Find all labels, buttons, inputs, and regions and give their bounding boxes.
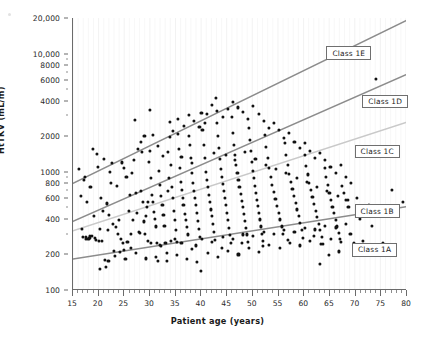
x-tick-label: 70 bbox=[350, 299, 360, 308]
x-minor-tick bbox=[262, 290, 263, 293]
x-minor-tick bbox=[236, 290, 237, 293]
x-tick-mark bbox=[149, 290, 150, 296]
x-minor-tick bbox=[103, 290, 104, 293]
x-minor-tick bbox=[190, 290, 191, 293]
x-minor-tick bbox=[180, 290, 181, 293]
x-tick-mark bbox=[252, 290, 253, 296]
class-label-class-1d: Class 1D bbox=[362, 95, 408, 109]
x-minor-tick bbox=[365, 290, 366, 293]
x-minor-tick bbox=[349, 290, 350, 293]
x-minor-tick bbox=[298, 290, 299, 293]
x-tick-mark bbox=[123, 290, 124, 296]
x-tick-mark bbox=[72, 290, 73, 296]
x-minor-tick bbox=[391, 290, 392, 293]
x-minor-tick bbox=[221, 290, 222, 293]
x-minor-tick bbox=[324, 290, 325, 293]
x-tick-label: 35 bbox=[170, 299, 180, 308]
x-minor-tick bbox=[216, 290, 217, 293]
x-tick-label: 25 bbox=[119, 299, 129, 308]
class-label-class-1a: Class 1A bbox=[352, 243, 397, 257]
x-tick-label: 40 bbox=[196, 299, 206, 308]
x-minor-tick bbox=[319, 290, 320, 293]
x-minor-tick bbox=[164, 290, 165, 293]
x-minor-tick bbox=[242, 290, 243, 293]
x-minor-tick bbox=[267, 290, 268, 293]
x-minor-tick bbox=[93, 290, 94, 293]
x-minor-tick bbox=[334, 290, 335, 293]
x-tick-label: 80 bbox=[401, 299, 411, 308]
x-axis-title: Patient age (years) bbox=[0, 316, 435, 326]
x-tick-label: 65 bbox=[324, 299, 334, 308]
x-minor-tick bbox=[360, 290, 361, 293]
x-axis-ticks bbox=[72, 290, 406, 299]
x-minor-tick bbox=[272, 290, 273, 293]
x-minor-tick bbox=[257, 290, 258, 293]
x-tick-label: 60 bbox=[298, 299, 308, 308]
x-tick-mark bbox=[329, 290, 330, 296]
x-tick-mark bbox=[98, 290, 99, 296]
x-minor-tick bbox=[344, 290, 345, 293]
x-tick-label: 75 bbox=[375, 299, 385, 308]
x-minor-tick bbox=[288, 290, 289, 293]
x-minor-tick bbox=[308, 290, 309, 293]
x-tick-mark bbox=[278, 290, 279, 296]
x-tick-mark bbox=[303, 290, 304, 296]
x-tick-label: 20 bbox=[93, 299, 103, 308]
x-tick-label: 55 bbox=[273, 299, 283, 308]
x-minor-tick bbox=[293, 290, 294, 293]
x-minor-tick bbox=[139, 290, 140, 293]
x-tick-label: 45 bbox=[221, 299, 231, 308]
x-minor-tick bbox=[283, 290, 284, 293]
x-minor-tick bbox=[82, 290, 83, 293]
x-tick-mark bbox=[226, 290, 227, 296]
x-minor-tick bbox=[170, 290, 171, 293]
x-minor-tick bbox=[154, 290, 155, 293]
x-minor-tick bbox=[77, 290, 78, 293]
x-minor-tick bbox=[159, 290, 160, 293]
x-minor-tick bbox=[375, 290, 376, 293]
class-label-class-1c: Class 1C bbox=[355, 145, 400, 159]
class-label-class-1b: Class 1B bbox=[355, 204, 400, 218]
x-minor-tick bbox=[206, 290, 207, 293]
x-minor-tick bbox=[401, 290, 402, 293]
x-axis-tick-labels: 1520253035404550556065707580 bbox=[72, 299, 406, 311]
x-tick-label: 30 bbox=[144, 299, 154, 308]
x-minor-tick bbox=[108, 290, 109, 293]
x-minor-tick bbox=[211, 290, 212, 293]
x-minor-tick bbox=[314, 290, 315, 293]
x-tick-label: 50 bbox=[247, 299, 257, 308]
x-minor-tick bbox=[118, 290, 119, 293]
x-tick-mark bbox=[200, 290, 201, 296]
x-minor-tick bbox=[144, 290, 145, 293]
x-minor-tick bbox=[195, 290, 196, 293]
x-minor-tick bbox=[129, 290, 130, 293]
x-minor-tick bbox=[113, 290, 114, 293]
x-minor-tick bbox=[339, 290, 340, 293]
x-minor-tick bbox=[185, 290, 186, 293]
chart-figure: 1002004006008001000200040006000800010,00… bbox=[0, 0, 435, 344]
x-minor-tick bbox=[385, 290, 386, 293]
x-tick-mark bbox=[380, 290, 381, 296]
x-tick-mark bbox=[175, 290, 176, 296]
x-minor-tick bbox=[231, 290, 232, 293]
class-label-class-1e: Class 1E bbox=[326, 46, 371, 60]
x-tick-mark bbox=[355, 290, 356, 296]
x-minor-tick bbox=[396, 290, 397, 293]
x-tick-label: 15 bbox=[67, 299, 77, 308]
x-minor-tick bbox=[87, 290, 88, 293]
x-minor-tick bbox=[134, 290, 135, 293]
x-tick-mark bbox=[406, 290, 407, 296]
x-minor-tick bbox=[247, 290, 248, 293]
x-minor-tick bbox=[370, 290, 371, 293]
